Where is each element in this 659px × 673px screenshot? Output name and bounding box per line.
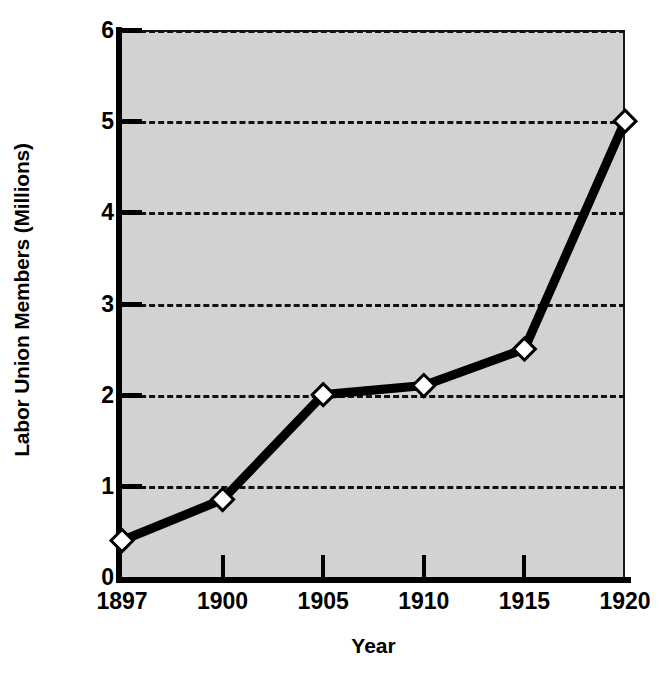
x-axis-tick-label: 1920 — [570, 590, 659, 613]
data-point-marker — [413, 375, 435, 397]
y-axis-tick-labels: 0123456 — [52, 0, 114, 673]
y-axis-title: Labor Union Members (Millions) — [0, 0, 44, 600]
x-axis-tick-label: 1915 — [469, 590, 579, 613]
y-axis-title-text: Labor Union Members (Millions) — [10, 143, 34, 457]
y-axis-tick-label: 6 — [80, 19, 114, 42]
line-chart: Labor Union Members (Millions) 0123456 1… — [0, 0, 659, 673]
series-markers — [111, 110, 636, 551]
plot-area — [122, 30, 625, 577]
x-axis-tick-label: 1905 — [268, 590, 378, 613]
x-axis-tick-labels: 189719001905191019151920 — [122, 590, 625, 622]
x-axis-tick-label: 1900 — [168, 590, 278, 613]
series-line — [122, 121, 625, 540]
x-axis-tick-label: 1897 — [67, 590, 177, 613]
y-axis-tick-label: 1 — [80, 474, 114, 497]
x-axis-line — [116, 577, 631, 583]
y-axis-tick-label: 5 — [80, 110, 114, 133]
x-axis-title: Year — [122, 634, 625, 658]
y-axis-tick-label: 3 — [80, 292, 114, 315]
y-axis-tick-label: 4 — [80, 201, 114, 224]
y-axis-tick-label: 0 — [80, 566, 114, 589]
data-series — [122, 30, 625, 577]
y-axis-tick-label: 2 — [80, 383, 114, 406]
x-axis-tick-label: 1910 — [369, 590, 479, 613]
